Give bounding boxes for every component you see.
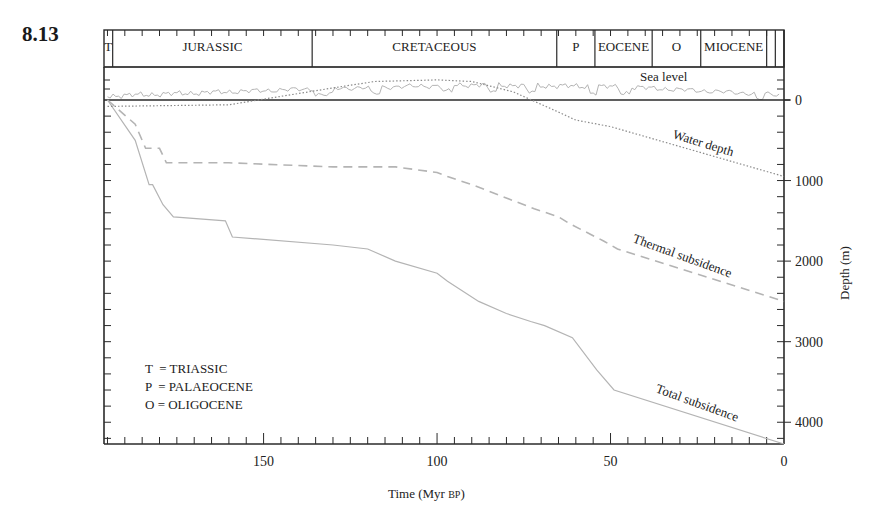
x-tick-label: 0 [781, 454, 788, 469]
x-tick-label: 100 [427, 454, 448, 469]
sea-level-curve [108, 83, 780, 100]
total-subsidence-label: Total subsidence [654, 381, 741, 425]
period-legend: T = TRIASSIC P = PALAEOCENE O = OLIGOCEN… [145, 361, 253, 412]
period-label: CRETACEOUS [392, 39, 476, 54]
period-bar: TJURASSICCRETACEOUSPEOCENEOMIOCENE [104, 30, 784, 67]
y-axis-title: Depth (m) [837, 246, 852, 300]
period-label: P [572, 39, 579, 54]
y-tick-label: 1000 [795, 174, 823, 189]
x-axis-title: Time (Myr BP) [388, 486, 465, 501]
y-tick-label: 0 [795, 93, 802, 108]
curve-labels: Sea level Water depth Thermal subsidence… [631, 69, 741, 425]
legend-line-palaeocene: P = PALAEOCENE [145, 379, 253, 394]
y-tick-label: 4000 [795, 415, 823, 430]
period-label: EOCENE [598, 39, 649, 54]
x-tick-label: 150 [253, 454, 274, 469]
period-label: MIOCENE [704, 39, 763, 54]
legend-line-triassic: T = TRIASSIC [145, 361, 227, 376]
period-label: O [672, 39, 681, 54]
water-depth-label: Water depth [671, 127, 736, 160]
subsidence-chart: TJURASSICCRETACEOUSPEOCENEOMIOCENE 15010… [0, 0, 895, 524]
sea-level-label: Sea level [640, 69, 688, 84]
y-tick-label: 2000 [795, 254, 823, 269]
period-label: JURASSIC [182, 39, 242, 54]
period-label: T [104, 39, 112, 54]
thermal-subsidence-label: Thermal subsidence [631, 231, 734, 281]
y-tick-label: 3000 [795, 335, 823, 350]
legend-line-oligocene: O = OLIGOCENE [145, 397, 243, 412]
x-tick-label: 50 [604, 454, 618, 469]
